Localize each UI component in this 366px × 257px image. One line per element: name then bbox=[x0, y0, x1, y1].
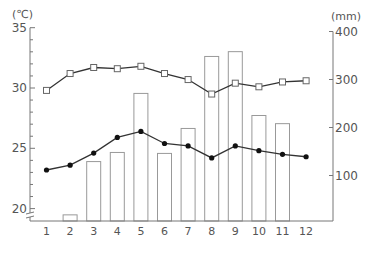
right-tick-label: 400 bbox=[335, 25, 358, 39]
left-tick-label: 25 bbox=[12, 141, 27, 155]
x-tick-label: 6 bbox=[161, 225, 168, 238]
precipitation-bar bbox=[110, 152, 124, 221]
right-tick-label: 100 bbox=[335, 169, 358, 183]
precipitation-bar bbox=[158, 153, 172, 221]
left-tick-label: 30 bbox=[12, 81, 27, 95]
min_temperature-line bbox=[47, 131, 307, 170]
precipitation-bar bbox=[134, 93, 148, 221]
x-tick-label: 8 bbox=[208, 225, 215, 238]
max_temperature-line bbox=[47, 66, 307, 94]
x-tick-label: 4 bbox=[114, 225, 121, 238]
right-tick-label: 300 bbox=[335, 73, 358, 87]
circle-marker bbox=[91, 151, 96, 156]
axes: 20253035100200300400123456789101112 bbox=[12, 21, 358, 238]
precipitation-bar bbox=[276, 124, 290, 221]
circle-marker bbox=[233, 143, 238, 148]
circle-marker bbox=[186, 143, 191, 148]
circle-marker bbox=[280, 152, 285, 157]
precipitation-bar bbox=[252, 116, 266, 222]
precipitation-bar bbox=[63, 215, 77, 221]
square-marker bbox=[162, 71, 168, 77]
circle-marker bbox=[209, 155, 214, 160]
left-tick-label: 20 bbox=[12, 202, 27, 216]
x-tick-label: 9 bbox=[232, 225, 239, 238]
x-tick-label: 1 bbox=[43, 225, 50, 238]
square-marker bbox=[232, 80, 238, 86]
temperature-lines bbox=[44, 63, 310, 172]
x-tick-label: 7 bbox=[185, 225, 192, 238]
left-tick-label: 35 bbox=[12, 21, 27, 35]
x-tick-label: 3 bbox=[90, 225, 97, 238]
square-marker bbox=[44, 87, 50, 93]
square-marker bbox=[280, 79, 286, 85]
square-marker bbox=[138, 63, 144, 69]
precipitation-bar bbox=[181, 128, 195, 221]
circle-marker bbox=[115, 135, 120, 140]
circle-marker bbox=[138, 129, 143, 134]
x-tick-label: 10 bbox=[252, 225, 266, 238]
x-tick-label: 2 bbox=[67, 225, 74, 238]
square-marker bbox=[256, 84, 262, 90]
circle-marker bbox=[44, 167, 49, 172]
square-marker bbox=[185, 77, 191, 83]
precipitation-bar bbox=[87, 162, 101, 221]
circle-marker bbox=[256, 148, 261, 153]
precipitation-bar bbox=[228, 52, 242, 221]
precipitation-bar bbox=[205, 56, 219, 221]
left-axis-unit-label: (℃) bbox=[12, 8, 33, 21]
climate-chart: 20253035100200300400123456789101112 (℃) … bbox=[0, 0, 366, 257]
square-marker bbox=[303, 78, 309, 84]
square-marker bbox=[209, 91, 215, 97]
x-tick-label: 5 bbox=[137, 225, 144, 238]
square-marker bbox=[67, 71, 73, 77]
right-axis-unit-label: (mm) bbox=[331, 10, 361, 23]
circle-marker bbox=[162, 141, 167, 146]
circle-marker bbox=[68, 163, 73, 168]
right-tick-label: 200 bbox=[335, 121, 358, 135]
square-marker bbox=[91, 64, 97, 70]
chart-svg: 20253035100200300400123456789101112 (℃) … bbox=[0, 0, 366, 257]
x-tick-label: 11 bbox=[276, 225, 290, 238]
circle-marker bbox=[304, 154, 309, 159]
x-tick-label: 12 bbox=[299, 225, 313, 238]
square-marker bbox=[114, 66, 120, 72]
